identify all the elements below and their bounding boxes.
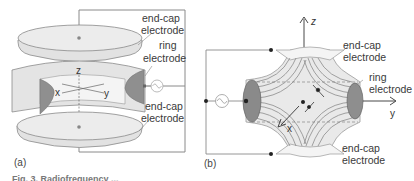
z-axis-label-b: z [310,16,316,27]
panel-label-a: (a) [14,157,26,168]
svg-text:electrode: electrode [369,83,412,95]
svg-text:electrode: electrode [343,51,386,63]
bottom-endcap-electrode-a [17,112,143,148]
panel-b: z y x end-cap electrode ring electrode e… [204,16,412,169]
panel-label-b: (b) [204,158,216,169]
svg-text:electrode: electrode [141,24,184,36]
y-axis-label-a: y [104,88,109,99]
label-top-endcap-a: end-cap [142,12,180,24]
label-ring-b: ring [369,71,387,83]
svg-text:electrode: electrode [143,52,186,64]
ac-source-icon-b [216,95,229,108]
top-endcap-electrode-a [18,25,142,62]
panel-a: z x y end-cap electrode ring electrode e… [12,10,186,168]
ring-electrode-a [12,61,152,114]
x-axis-label-b: x [287,123,292,134]
x-axis-label-a: x [55,87,60,98]
z-axis-label-a: z [76,65,81,76]
label-bottom-endcap-a: end-cap [145,100,183,112]
contact-dot [77,36,81,40]
ac-source-icon [151,80,163,92]
y-axis-label-b: y [390,108,395,119]
ion-trap-figure: z x y end-cap electrode ring electrode e… [0,0,414,181]
figure-caption: Fig. 3. Radiofrequency ... [12,174,119,181]
label-bottom-endcap-b: end-cap [342,142,380,154]
svg-text:electrode: electrode [141,112,184,124]
label-top-endcap-b: end-cap [343,39,381,51]
label-ring-a: ring [159,39,177,51]
svg-text:electrode: electrode [342,154,385,166]
junction-dot [204,99,208,103]
ring-cross-section-right-b [347,83,363,119]
